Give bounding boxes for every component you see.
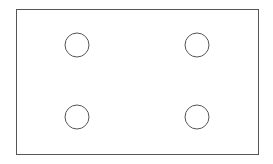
- diagram-canvas: [0, 0, 273, 164]
- hole-circle-4: [185, 105, 209, 129]
- hole-circle-1: [65, 33, 89, 57]
- plate-outline: [17, 10, 259, 155]
- hole-circle-3: [65, 105, 89, 129]
- hole-circle-2: [185, 33, 209, 57]
- holes-group: [65, 33, 209, 129]
